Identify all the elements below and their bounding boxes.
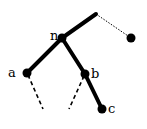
node-b	[81, 70, 90, 79]
label-a: a	[8, 65, 16, 80]
node-a	[23, 69, 32, 78]
edge-b-child-dashed	[69, 76, 84, 109]
edge-n-a	[27, 38, 62, 73]
edge-n-b	[62, 38, 85, 74]
label-c: c	[108, 101, 115, 116]
node-n	[58, 34, 67, 43]
label-b: b	[91, 66, 99, 81]
tree-diagram: n a b c	[0, 0, 147, 129]
edge-root-r-dotted	[96, 14, 131, 38]
edge-root-n	[62, 14, 96, 38]
edge-a-child-dashed	[28, 75, 43, 109]
node-c	[98, 105, 107, 114]
node-right-leaf	[127, 34, 136, 43]
label-n: n	[50, 28, 59, 43]
